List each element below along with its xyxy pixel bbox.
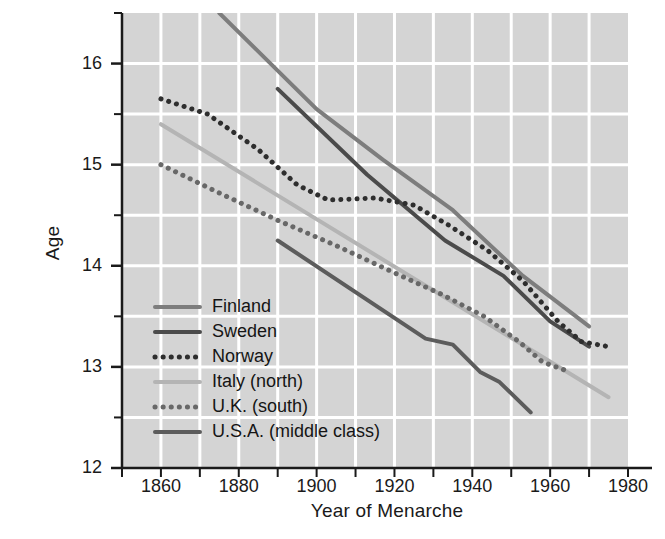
y-tick-label: 13 [62, 356, 102, 377]
x-tick-label: 1880 [209, 476, 269, 497]
legend-label-italy-north: Italy (north) [212, 371, 303, 392]
x-tick-label: 1860 [131, 476, 191, 497]
x-tick-label: 1920 [364, 476, 424, 497]
y-tick-label: 12 [62, 457, 102, 478]
x-tick-label: 1940 [442, 476, 502, 497]
legend-label-norway: Norway [212, 346, 273, 367]
x-tick-label: 1960 [520, 476, 580, 497]
legend-label-u-s-a-middle-class: U.S.A. (middle class) [212, 421, 380, 442]
y-tick-label: 15 [62, 154, 102, 175]
x-tick-label: 1980 [598, 476, 658, 497]
legend-label-sweden: Sweden [212, 321, 277, 342]
y-tick-label: 14 [62, 255, 102, 276]
plot-area-background [122, 13, 628, 468]
x-axis-title: Year of Menarche [222, 500, 552, 522]
legend-label-finland: Finland [212, 296, 271, 317]
legend-label-u-k-south: U.K. (south) [212, 396, 308, 417]
y-axis-title: Age [42, 188, 64, 298]
x-tick-label: 1900 [287, 476, 347, 497]
y-tick-label: 16 [62, 53, 102, 74]
